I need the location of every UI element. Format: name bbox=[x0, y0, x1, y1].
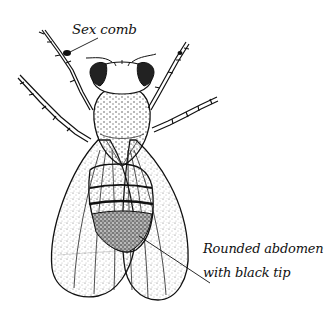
sex-comb-label: Sex comb bbox=[72, 22, 137, 37]
sex-comb-pointer bbox=[70, 38, 98, 52]
sex-comb-marker bbox=[63, 50, 71, 56]
abdomen-label-line1: Rounded abdomen bbox=[203, 241, 323, 256]
head bbox=[86, 54, 156, 94]
abdomen-label-line2: with black tip bbox=[203, 265, 323, 280]
fly-illustration: Sex comb Rounded abdomen with black tip bbox=[0, 0, 335, 322]
front-left-leg bbox=[39, 30, 93, 110]
abdomen-label: Rounded abdomen with black tip bbox=[203, 241, 323, 280]
